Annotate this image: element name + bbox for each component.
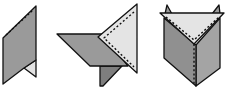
fold-step-3	[160, 5, 224, 86]
fold-step-1	[3, 6, 36, 84]
folding-diagram	[0, 0, 228, 91]
fold-step-2	[57, 4, 137, 86]
paper-tab-dark	[100, 66, 122, 86]
